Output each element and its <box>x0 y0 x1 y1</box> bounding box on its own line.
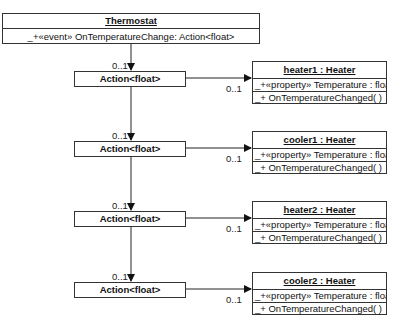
on-temperature-changed-method: _+ OnTemperatureChanged( ) <box>253 91 386 104</box>
heater-object-heater2[interactable]: heater2 : Heater _+«property» Temperatur… <box>252 201 387 244</box>
action-label: Action<float> <box>75 213 185 225</box>
on-temperature-changed-method: _+ OnTemperatureChanged( ) <box>253 302 386 315</box>
object-title: heater2 : Heater <box>284 204 356 215</box>
thermostat-class[interactable]: Thermostat _+«event» OnTemperatureChange… <box>2 13 260 44</box>
multiplicity-label: 0..1 <box>112 272 128 282</box>
object-title: cooler1 : Heater <box>284 134 356 145</box>
action-box-3[interactable]: Action<float> <box>74 211 186 227</box>
thermostat-title: Thermostat <box>3 15 259 27</box>
action-box-4[interactable]: Action<float> <box>74 282 186 298</box>
multiplicity-label: 0..1 <box>112 201 128 211</box>
temperature-property: _+«property» Temperature : float <box>253 289 386 302</box>
multiplicity-label: 0..1 <box>112 131 128 141</box>
on-temperature-changed-method: _+ OnTemperatureChanged( ) <box>253 231 386 244</box>
heater-object-heater1[interactable]: heater1 : Heater _+«property» Temperatur… <box>252 61 387 104</box>
multiplicity-label: 0..1 <box>226 84 242 94</box>
thermostat-event-member: _+«event» OnTemperatureChange: Action<fl… <box>3 28 259 43</box>
action-box-2[interactable]: Action<float> <box>74 141 186 157</box>
temperature-property: _+«property» Temperature : float <box>253 218 386 231</box>
action-label: Action<float> <box>75 73 185 85</box>
heater-object-cooler1[interactable]: cooler1 : Heater _+«property» Temperatur… <box>252 131 387 174</box>
object-title: heater1 : Heater <box>284 64 356 75</box>
heater-object-cooler2[interactable]: cooler2 : Heater _+«property» Temperatur… <box>252 272 387 315</box>
event-member-text: _+«event» OnTemperatureChange: Action<fl… <box>28 31 235 42</box>
action-box-1[interactable]: Action<float> <box>74 71 186 87</box>
action-label: Action<float> <box>75 284 185 296</box>
temperature-property: _+«property» Temperature : float <box>253 148 386 161</box>
on-temperature-changed-method: _+ OnTemperatureChanged( ) <box>253 161 386 174</box>
object-title: cooler2 : Heater <box>284 275 356 286</box>
temperature-property: _+«property» Temperature : float <box>253 78 386 91</box>
multiplicity-label: 0..1 <box>112 61 128 71</box>
multiplicity-label: 0..1 <box>226 154 242 164</box>
multiplicity-label: 0..1 <box>226 295 242 305</box>
multiplicity-label: 0..1 <box>226 224 242 234</box>
thermostat-title-text: Thermostat <box>105 15 157 26</box>
action-label: Action<float> <box>75 143 185 155</box>
